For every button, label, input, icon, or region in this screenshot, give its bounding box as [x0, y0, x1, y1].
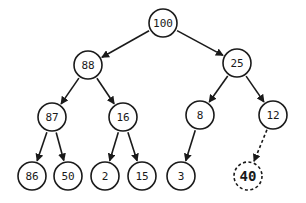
heap-tree-diagram: 100882587168128650215340: [0, 0, 306, 203]
edge-88-to-87: [61, 78, 79, 104]
tree-node-40: 40: [234, 162, 262, 190]
edge-8-to-3: [186, 130, 195, 160]
node-value: 3: [178, 170, 185, 183]
tree-node-25: 25: [223, 49, 251, 77]
node-value: 25: [230, 57, 243, 70]
node-value: 87: [45, 111, 58, 124]
node-value: 2: [102, 170, 109, 183]
edge-25-to-12: [246, 76, 264, 102]
node-value: 88: [81, 59, 94, 72]
node-value: 100: [153, 17, 173, 30]
node-value: 8: [197, 109, 204, 122]
edge-87-to-50: [56, 132, 64, 160]
node-value: 50: [61, 170, 74, 183]
tree-node-88: 88: [74, 51, 102, 79]
tree-node-12: 12: [259, 101, 287, 129]
node-value: 16: [116, 111, 129, 124]
tree-node-8: 8: [186, 101, 214, 129]
nodes-layer: 100882587168128650215340: [18, 9, 287, 190]
tree-node-100: 100: [149, 9, 177, 37]
edge-12-to-40: [254, 130, 267, 161]
edge-87-to-86: [37, 132, 47, 161]
node-value: 12: [266, 109, 279, 122]
tree-node-87: 87: [38, 103, 66, 131]
tree-node-2: 2: [91, 162, 119, 190]
tree-canvas: 100882587168128650215340: [0, 0, 306, 203]
edge-100-to-88: [102, 31, 149, 57]
node-value: 15: [135, 170, 148, 183]
tree-node-50: 50: [54, 162, 82, 190]
tree-node-86: 86: [18, 162, 46, 190]
edge-88-to-16: [97, 78, 114, 103]
tree-node-15: 15: [128, 162, 156, 190]
edge-16-to-15: [128, 132, 137, 161]
node-value: 86: [25, 170, 38, 183]
node-value: 40: [240, 168, 257, 184]
edge-16-to-2: [110, 132, 119, 160]
tree-node-16: 16: [109, 103, 137, 131]
edge-25-to-8: [209, 76, 227, 102]
tree-node-3: 3: [167, 162, 195, 190]
edge-100-to-25: [177, 31, 223, 56]
